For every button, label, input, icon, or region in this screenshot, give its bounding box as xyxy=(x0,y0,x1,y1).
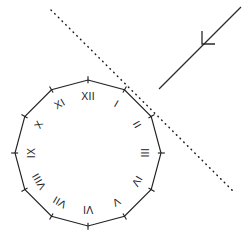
numeral-VIII: VIII xyxy=(29,171,48,192)
numeral-IV: IV xyxy=(130,174,146,189)
numeral-VI: VI xyxy=(83,204,94,216)
numeral-XI: XI xyxy=(52,96,67,112)
numeral-VII: VII xyxy=(50,194,68,211)
numeral-IX: IX xyxy=(25,148,37,159)
arrow-head-icon xyxy=(202,31,215,44)
dotted-line xyxy=(51,10,234,192)
figure-canvas: XIIIIIIIIIVVVIVIIVIIIIXXXI Dodecagon clo… xyxy=(0,0,251,242)
numeral-XII: XII xyxy=(81,90,95,102)
roman-numeral-group: XIIIIIIIIIVVVIVIIVIIIIXXXI xyxy=(25,90,151,216)
dodecagon-outline xyxy=(15,80,161,226)
numeral-I: I xyxy=(112,97,121,109)
geometry-figure: XIIIIIIIIIVVVIVIIVIIIIXXXI Dodecagon clo… xyxy=(0,0,251,242)
numeral-III: III xyxy=(139,148,151,158)
numeral-V: V xyxy=(110,196,122,210)
solid-arrow-ray xyxy=(159,7,241,89)
numeral-II: II xyxy=(131,119,145,131)
dodecagon-clock-face: XIIIIIIIIIVVVIVIIVIIIIXXXI xyxy=(11,76,165,230)
numeral-X: X xyxy=(31,118,45,130)
